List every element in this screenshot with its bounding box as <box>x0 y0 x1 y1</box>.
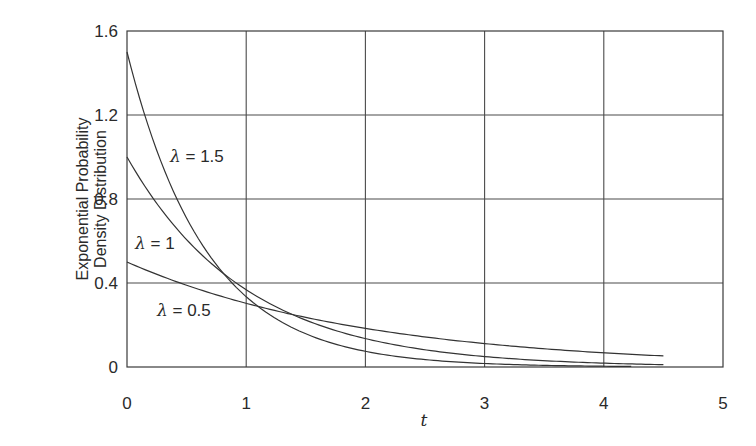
y-tick-label: 1.2 <box>94 106 118 125</box>
x-tick-label: 2 <box>361 394 370 413</box>
curve-label-lambda-1-5: λ = 1.5 <box>169 146 224 166</box>
x-tick-label: 4 <box>599 394 608 413</box>
x-tick-label: 5 <box>718 394 727 413</box>
grid-lines <box>127 31 723 367</box>
y-tick-label: 0.4 <box>94 274 118 293</box>
curve-label-lambda-1: λ = 1 <box>134 233 175 253</box>
exponential-pdf-chart: 012345 00.40.81.21.6 Exponential Probabi… <box>0 0 756 446</box>
curve-label-value: = 1.5 <box>181 147 224 166</box>
x-tick-label: 3 <box>480 394 489 413</box>
y-tick-label: 1.6 <box>94 22 118 41</box>
curve-label-value: = 0.5 <box>168 301 211 320</box>
curve-1 <box>127 157 663 365</box>
x-tick-label: 0 <box>122 394 131 413</box>
curve-label-value: = 1 <box>146 234 175 253</box>
y-axis-label: Exponential Probability Density Distribu… <box>74 118 109 281</box>
y-axis-label-line-1: Exponential Probability <box>74 118 91 281</box>
lambda-symbol: λ <box>169 146 181 166</box>
x-tick-label: 1 <box>241 394 250 413</box>
y-tick-label: 0 <box>109 358 118 377</box>
lambda-symbol: λ <box>156 300 168 320</box>
lambda-symbol: λ <box>134 233 146 253</box>
x-axis-label: t <box>421 410 428 430</box>
y-axis-label-line-2: Density Distribution <box>92 130 109 268</box>
curve-label-lambda-0-5: λ = 0.5 <box>156 300 211 320</box>
